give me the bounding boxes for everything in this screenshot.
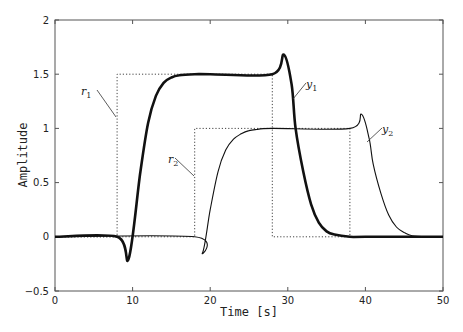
response-chart: −0.500.511.52 01020304050 r1 r2 y1 y2 Ti… (0, 0, 463, 332)
x-tick-label: 20 (204, 295, 217, 306)
x-tick-label: 40 (359, 295, 372, 306)
x-axis-label: Time [s] (220, 305, 278, 319)
plot-area (55, 20, 443, 291)
y-axis-label: Amplitude (16, 122, 30, 187)
y-tick-label: 0.5 (33, 177, 49, 188)
y-tick-label: 2 (43, 15, 49, 26)
x-tick-label: 30 (281, 295, 294, 306)
y-tick-label: −0.5 (25, 286, 49, 297)
x-tick-label: 10 (126, 295, 139, 306)
x-tick-label: 50 (437, 295, 450, 306)
y-tick-label: 0 (43, 231, 49, 242)
y-tick-label: 1 (43, 123, 49, 134)
x-tick-label: 0 (52, 295, 58, 306)
y-tick-label: 1.5 (33, 69, 49, 80)
